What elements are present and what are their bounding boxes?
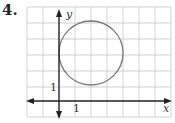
x-axis-label: x [163, 102, 170, 115]
y-tick-label: 1 [50, 81, 57, 94]
x-tick-label: 1 [73, 102, 80, 115]
coordinate-graph: y x 1 1 [0, 0, 175, 123]
x-axis [26, 98, 172, 104]
y-axis-label: y [65, 8, 73, 21]
